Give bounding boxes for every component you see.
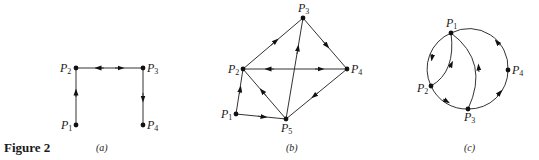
label-b-p2: P2 xyxy=(227,62,239,77)
label-c-p3: P3 xyxy=(463,110,475,125)
node-b-p4 xyxy=(345,67,350,72)
label-c-p2: P2 xyxy=(416,81,428,96)
edge-c-p3-p1 xyxy=(451,33,476,109)
arrow-b-p4-p5 xyxy=(314,93,318,96)
label-b-p3: P3 xyxy=(297,1,309,16)
node-b-p3 xyxy=(301,16,306,21)
edge-c-p2-p1 xyxy=(431,33,452,86)
arrow-c-p1-p2 xyxy=(432,54,433,58)
arrow-b-p5-p3 xyxy=(297,48,298,54)
arrow-c-p2-p1 xyxy=(450,64,452,68)
panel-a: P1 P2 P3 P4 (a) xyxy=(59,61,158,154)
label-b-p5: P5 xyxy=(280,121,292,136)
label-a-p2: P2 xyxy=(59,61,71,76)
edge-c-p4-p1 xyxy=(451,29,508,70)
label-a-p4: P4 xyxy=(146,118,158,133)
label-a-p1: P1 xyxy=(60,118,72,133)
edge-c-p3-p4 xyxy=(468,70,508,109)
node-c-p1 xyxy=(449,31,454,36)
node-c-p2 xyxy=(429,84,434,89)
node-b-p2 xyxy=(241,67,246,72)
arrow-b-p1-p5 xyxy=(258,116,264,117)
panel-c: P1 P2 P3 P4 (c) xyxy=(416,16,523,154)
node-a-p2 xyxy=(74,66,79,71)
arrow-b-p3-p4 xyxy=(323,41,327,46)
label-a-p3: P3 xyxy=(146,61,158,76)
arrow-b-p2-p3 xyxy=(271,41,276,45)
label-b-p1: P1 xyxy=(220,107,232,122)
arrow-b-p5-p2 xyxy=(262,91,266,96)
edge-c-p2-p3 xyxy=(431,86,468,109)
label-c-p1: P1 xyxy=(445,16,457,31)
caption-a: (a) xyxy=(96,142,108,154)
edge-c-p1-p2 xyxy=(427,33,451,86)
node-a-p1 xyxy=(74,123,79,128)
figure-2-diagram: P1 P2 P3 P4 (a) P1 P2 P3 P4 P xyxy=(0,0,539,160)
caption-c: (c) xyxy=(464,142,476,154)
caption-b: (b) xyxy=(286,142,298,154)
node-c-p4 xyxy=(506,68,511,73)
label-c-p4: P4 xyxy=(511,63,523,78)
panel-b: P1 P2 P3 P4 P5 (b) xyxy=(220,1,362,154)
node-b-p1 xyxy=(234,112,239,117)
label-b-p4: P4 xyxy=(350,62,362,77)
node-a-p4 xyxy=(141,123,146,128)
figure-title: Figure 2 xyxy=(4,140,50,155)
node-a-p3 xyxy=(141,66,146,71)
